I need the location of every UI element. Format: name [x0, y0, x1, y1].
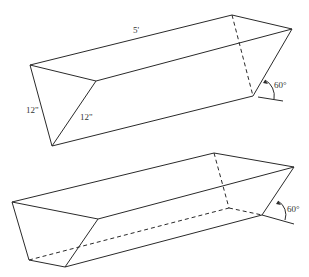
triangular-trough-figure: 5' 12" 12" 60° [26, 15, 292, 146]
hidden-back-edge [214, 153, 229, 208]
front-triangle-face [30, 65, 96, 146]
side-right-label: 12" [80, 112, 93, 122]
top-back-edge [12, 153, 214, 202]
back-top-edge [232, 15, 292, 29]
hidden-back-edge [232, 15, 253, 96]
length-label: 5' [133, 25, 140, 35]
angle-reference-line [262, 215, 294, 224]
top-front-edge [96, 29, 292, 81]
back-top-edge [214, 153, 294, 167]
diagram-canvas: 5' 12" 12" 60° 60° [0, 0, 309, 277]
angle-reference-line [258, 97, 283, 101]
angle-label: 60° [274, 80, 287, 90]
hidden-bottom-back-edge [29, 208, 229, 260]
bottom-front-edge [65, 215, 262, 267]
trapezoidal-trough-figure: 60° [12, 153, 300, 267]
angle-label: 60° [287, 204, 300, 214]
front-trapezoid-face [12, 202, 98, 267]
hidden-back-bottom-edge [229, 208, 262, 215]
side-left-label: 12" [26, 105, 39, 115]
top-back-edge [30, 15, 232, 65]
